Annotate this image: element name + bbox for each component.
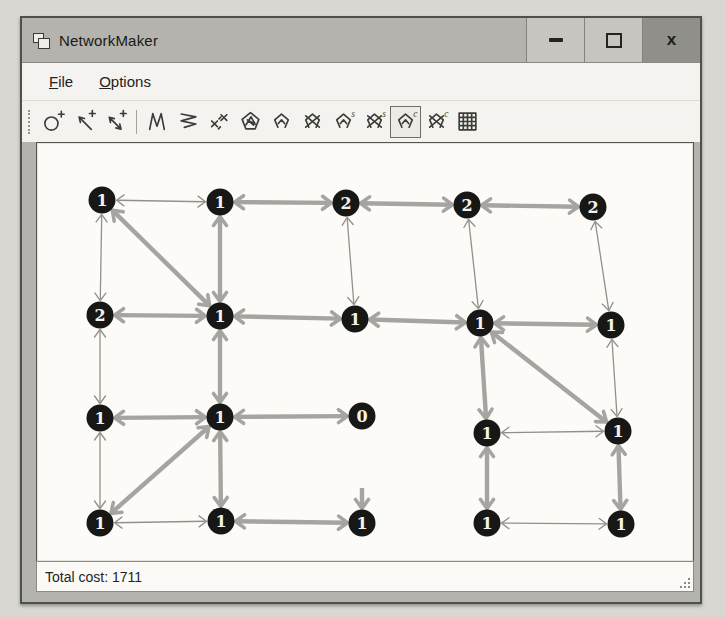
graph-node-label: 1 [474,314,485,333]
maximize-button[interactable] [584,18,642,62]
graph-node-label: 1 [94,514,105,533]
graph-node-label: 1 [214,408,225,427]
svg-text:c: c [413,109,418,119]
svg-text:s: s [382,109,386,119]
window-title: NetworkMaker [59,32,158,49]
graph-edge[interactable] [236,521,346,523]
menu-item-file[interactable]: File [36,67,86,96]
graph-node-label: 2 [461,196,472,215]
graph-edge[interactable] [612,340,617,415]
graph-node-label: 1 [214,307,225,326]
graph-edge[interactable] [347,218,354,303]
graph-edge[interactable] [495,323,595,325]
toolbar-button-small-network[interactable] [266,106,297,138]
graph-edge[interactable] [235,202,330,203]
maximize-icon [606,33,622,48]
total-cost-label: Total cost: 1711 [45,569,142,585]
graph-node-label: 1 [612,422,623,441]
graph-node-label: 1 [481,514,492,533]
toolbar-button-crossed-network-s[interactable]: s [359,106,390,138]
graph-node-label: 1 [349,310,360,329]
graph-edge[interactable] [595,222,608,309]
graph-edge[interactable] [235,316,339,318]
networkmaker-window: NetworkMaker x FileOptions sscc 11222211… [20,16,702,604]
graph-node-label: 1 [605,316,616,335]
graph-edge[interactable] [117,200,204,201]
graph-node-label: 2 [94,306,105,325]
toolbar-button-grid-network[interactable] [452,106,483,138]
graph-edge[interactable] [469,220,479,307]
graph-edge[interactable] [492,333,606,422]
graph-edge[interactable] [481,338,486,417]
toolbar-button-crossed-network[interactable] [297,106,328,138]
network-canvas[interactable]: 11222211111101111111 [36,142,694,562]
minimize-icon [549,38,563,42]
menu-item-options[interactable]: Options [86,67,164,96]
toolbar-button-scribble-network[interactable] [235,106,266,138]
svg-text:c: c [444,109,449,119]
graph-node-label: 1 [615,515,626,534]
menu-bar: FileOptions [22,62,700,100]
graph-edge[interactable] [370,319,464,322]
graph-edge[interactable] [220,432,221,505]
toolbar-button-network-c[interactable]: c [390,106,421,138]
app-icon [33,33,50,48]
graph-edge[interactable] [115,417,204,418]
minimize-button[interactable] [526,18,584,62]
graph-edge[interactable] [235,416,346,417]
toolbar-button-zigzag-network-2[interactable] [173,106,204,138]
graph-edge[interactable] [115,521,205,522]
graph-node-label: 1 [214,193,225,212]
svg-text:s: s [351,109,355,119]
graph-node-label: 1 [94,409,105,428]
graph-edge[interactable] [502,523,605,524]
toolbar-button-make-node[interactable] [38,106,69,138]
graph-node-label: 1 [356,514,367,533]
graph-edge[interactable] [618,446,620,508]
network-graph[interactable]: 11222211111101111111 [37,143,693,560]
toolbar-button-zigzag-network[interactable] [142,106,173,138]
graph-edge[interactable] [100,215,101,299]
graph-edge[interactable] [113,211,209,305]
close-button[interactable]: x [642,18,700,62]
toolbar-separator [136,110,137,134]
toolbar-button-crossed-network-c[interactable]: c [421,106,452,138]
toolbar-grip[interactable] [28,110,33,134]
graph-edge[interactable] [482,205,577,207]
toolbar-button-make-two-way-link[interactable] [100,106,131,138]
graph-node-label: 0 [356,407,367,426]
graph-node-label: 2 [587,198,598,217]
graph-edge[interactable] [502,431,602,433]
screenshot-stage: NetworkMaker x FileOptions sscc 11222211… [0,0,725,617]
graph-edge[interactable] [115,315,204,316]
graph-node-label: 1 [96,191,107,210]
graph-edge[interactable] [361,203,451,204]
close-icon: x [667,30,676,50]
toolbar-button-scatter-links[interactable] [204,106,235,138]
graph-node-label: 2 [340,194,351,213]
graph-node-label: 1 [215,512,226,531]
window-controls: x [526,18,700,62]
toolbar-button-network-s[interactable]: s [328,106,359,138]
toolbar: sscc [22,100,700,142]
title-bar[interactable]: NetworkMaker x [22,18,700,62]
toolbar-button-make-directed-link[interactable] [69,106,100,138]
graph-node-label: 1 [481,424,492,443]
resize-grip[interactable] [679,577,691,589]
status-bar: Total cost: 1711 [36,561,694,592]
graph-edge[interactable] [112,427,209,512]
